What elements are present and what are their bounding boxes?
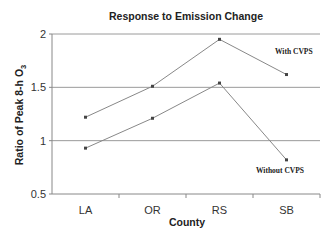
line-chart: Response to Emission Change 0.511.52 LAO… <box>0 0 334 242</box>
y-axis-title-main: Ratio of Peak 8-h O <box>13 69 25 165</box>
data-point-marker <box>151 117 154 120</box>
x-axis-title: County <box>169 216 205 228</box>
x-tick-label: SB <box>279 204 294 216</box>
data-point-marker <box>151 85 154 88</box>
x-tick-label: OR <box>144 204 161 216</box>
x-tick-label: RS <box>212 204 227 216</box>
y-tick-label: 2 <box>40 28 46 40</box>
y-tick-labels: 0.511.52 <box>31 28 46 200</box>
y-tick-label: 1 <box>40 135 46 147</box>
data-point-marker <box>285 158 288 161</box>
y-axis-title: Ratio of Peak 8-h O3 <box>13 65 28 165</box>
y-axis-title-subscript: 3 <box>19 65 28 69</box>
data-point-marker <box>218 38 221 41</box>
y-tick-label: 1.5 <box>31 81 46 93</box>
data-point-marker <box>84 116 87 119</box>
x-tick-label: LA <box>79 204 93 216</box>
x-tick-labels: LAORRSSB <box>79 204 294 216</box>
data-point-marker <box>84 147 87 150</box>
series-line <box>86 39 287 117</box>
series-line <box>86 83 287 160</box>
annotation-without-cvps: Without CVPS <box>256 166 304 175</box>
data-series <box>84 38 288 162</box>
data-point-marker <box>285 73 288 76</box>
y-tick-label: 0.5 <box>31 188 46 200</box>
chart-title: Response to Emission Change <box>109 10 263 22</box>
data-point-marker <box>218 82 221 85</box>
annotation-with-cvps: With CVPS <box>275 47 313 56</box>
